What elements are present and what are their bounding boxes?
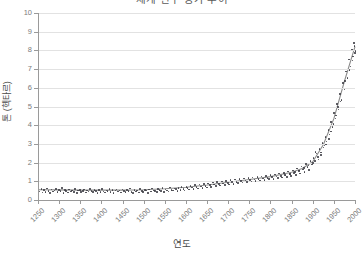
data-point (132, 192, 134, 194)
data-point (55, 188, 57, 190)
y-tick-label: 1 (2, 176, 32, 185)
data-point (57, 191, 59, 193)
data-point (221, 181, 223, 183)
data-point (68, 189, 70, 191)
x-tick-label: 1650 (192, 206, 215, 229)
x-tick-mark (313, 200, 314, 204)
x-tick-mark (59, 200, 60, 204)
data-point (274, 174, 276, 176)
y-tick-mark (34, 181, 38, 182)
x-tick-mark (292, 200, 293, 204)
data-point (142, 191, 144, 193)
data-point (101, 188, 103, 190)
data-point (312, 162, 314, 164)
data-point (353, 42, 355, 44)
data-point (305, 163, 307, 165)
data-point (82, 190, 84, 192)
data-point (268, 178, 270, 180)
data-point (351, 49, 353, 51)
data-point (308, 169, 310, 171)
data-point (160, 190, 162, 192)
data-point (49, 192, 51, 194)
y-tick-mark (34, 125, 38, 126)
x-tick-label: 1350 (65, 206, 88, 229)
gridline (38, 69, 355, 70)
data-point (273, 178, 275, 180)
data-point (294, 171, 296, 173)
x-tick-label: 1850 (277, 206, 300, 229)
plot-area (38, 13, 355, 200)
y-tick-mark (34, 88, 38, 89)
x-tick-label: 1800 (255, 206, 278, 229)
y-tick-label: 0 (2, 195, 32, 204)
data-point (128, 190, 130, 192)
data-point (246, 181, 248, 183)
data-point (147, 192, 149, 194)
y-tick-mark (34, 69, 38, 70)
gridline (38, 163, 355, 164)
data-point (60, 190, 62, 192)
x-tick-label: 1900 (298, 206, 321, 229)
data-point (317, 156, 319, 158)
y-tick-label: 2 (2, 158, 32, 167)
data-point (322, 142, 324, 144)
gridline (38, 125, 355, 126)
data-point (328, 138, 330, 140)
data-point (295, 174, 297, 176)
data-point (342, 82, 344, 84)
y-tick-mark (34, 107, 38, 108)
x-axis-line (38, 200, 356, 201)
data-point (41, 188, 43, 190)
y-tick-mark (34, 50, 38, 51)
data-point (325, 136, 327, 138)
gridline (38, 181, 355, 182)
y-axis-line (38, 13, 39, 201)
x-tick-label: 1300 (44, 206, 67, 229)
data-point (314, 160, 316, 162)
data-point (347, 77, 349, 79)
data-point (228, 184, 230, 186)
data-point (109, 188, 111, 190)
data-point (325, 144, 327, 146)
data-point (112, 189, 114, 191)
x-tick-label: 1450 (108, 206, 131, 229)
data-point (277, 177, 279, 179)
x-tick-mark (165, 200, 166, 204)
data-point (163, 191, 165, 193)
gridline (38, 88, 355, 89)
data-point (210, 186, 212, 188)
data-point (67, 192, 69, 194)
data-point (333, 123, 335, 125)
x-tick-mark (228, 200, 229, 204)
data-point (344, 80, 346, 82)
x-tick-label: 1550 (150, 206, 173, 229)
x-tick-label: 1750 (234, 206, 257, 229)
x-tick-mark (123, 200, 124, 204)
data-point (330, 121, 332, 123)
gridline (38, 107, 355, 108)
data-point (180, 189, 182, 191)
x-tick-mark (249, 200, 250, 204)
data-point (92, 191, 94, 193)
y-tick-mark (34, 32, 38, 33)
data-point (169, 187, 171, 189)
data-point (336, 103, 338, 105)
data-point (63, 192, 65, 194)
x-tick-label: 1250 (23, 206, 46, 229)
y-tick-mark (34, 13, 38, 14)
y-tick-label: 8 (2, 45, 32, 54)
x-tick-label: 1700 (213, 206, 236, 229)
data-point (320, 154, 322, 156)
y-tick-label: 10 (2, 8, 32, 17)
data-point (138, 192, 140, 194)
data-point (354, 52, 356, 54)
data-point (215, 185, 217, 187)
data-point (202, 187, 204, 189)
data-point (104, 192, 106, 194)
data-point (237, 182, 239, 184)
data-point (156, 191, 158, 193)
data-point (339, 93, 341, 95)
x-tick-mark (270, 200, 271, 204)
x-tick-label: 1600 (171, 206, 194, 229)
chart-title: 세계 인구 증가 추이 (0, 0, 364, 6)
